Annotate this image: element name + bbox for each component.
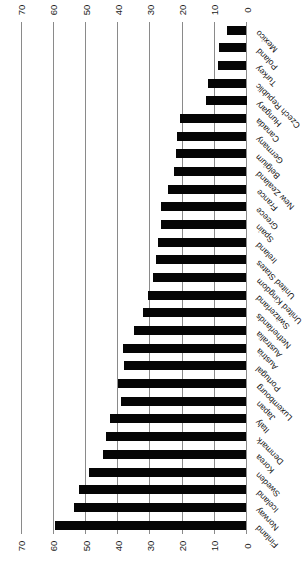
bar-luxembourg (118, 379, 247, 388)
value-tick-label-top-70: 70 (14, 0, 28, 25)
bar-australia (134, 326, 247, 335)
bar-switzerland (148, 291, 246, 300)
gridline-60 (53, 22, 54, 534)
rotated-bar-chart: 706050403020100 706050403020100 MexicoPo… (0, 0, 306, 565)
bar-finland (55, 521, 247, 530)
value-tick-label-bottom-10: 10 (207, 531, 221, 561)
value-tick-label-bottom-70: 70 (14, 531, 28, 561)
bar-sweden (89, 468, 247, 477)
bar-ireland (158, 238, 247, 247)
bar-belgium (176, 149, 247, 158)
value-tick-label-bottom-20: 20 (175, 531, 189, 561)
bar-greece (161, 202, 246, 211)
bar-czech-republic (208, 79, 247, 88)
bar-united-kingdom (153, 273, 246, 282)
value-tick-label-bottom-50: 50 (79, 531, 93, 561)
gridline-50 (85, 22, 86, 534)
value-tick-label-bottom-30: 30 (143, 531, 157, 561)
value-tick-label-top-10: 10 (207, 0, 221, 25)
bar-iceland (79, 485, 246, 494)
value-tick-label-top-20: 20 (175, 0, 189, 25)
bar-hungary (206, 96, 246, 105)
bar-mexico (227, 26, 246, 35)
bar-turkey (218, 61, 247, 70)
gridline-70 (21, 22, 22, 534)
bar-france (168, 185, 247, 194)
bar-austria (123, 344, 247, 353)
bar-italy (110, 414, 247, 423)
bar-germany (177, 132, 246, 141)
bar-japan (121, 397, 247, 406)
bar-korea (103, 450, 246, 459)
value-tick-label-top-50: 50 (79, 0, 93, 25)
value-tick-label-top-30: 30 (143, 0, 157, 25)
value-tick-label-top-60: 60 (46, 0, 60, 25)
bar-denmark (106, 432, 246, 441)
bar-netherlands (143, 308, 246, 317)
value-tick-label-bottom-60: 60 (46, 531, 60, 561)
value-tick-label-top-0: 0 (240, 0, 254, 25)
value-tick-label-bottom-40: 40 (111, 531, 125, 561)
value-tick-label-bottom-0: 0 (240, 531, 254, 561)
bar-canada (180, 114, 246, 123)
value-tick-label-top-40: 40 (111, 0, 125, 25)
bar-spain (161, 220, 246, 229)
bar-norway (74, 503, 246, 512)
bar-poland (219, 43, 246, 52)
bar-portugal (124, 361, 246, 370)
bar-united-states (156, 255, 246, 264)
bar-new-zealand (174, 167, 246, 176)
